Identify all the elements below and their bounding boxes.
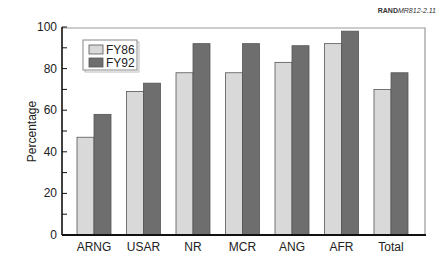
bar-fy92-afr xyxy=(342,31,359,235)
y-tick-label: 60 xyxy=(44,103,58,117)
bar-fy86-afr xyxy=(325,44,342,235)
legend-swatch-fy86 xyxy=(89,45,103,54)
bar-fy92-arng xyxy=(94,114,111,235)
y-tick-label: 80 xyxy=(44,62,58,76)
y-tick-label: 20 xyxy=(44,186,58,200)
x-category-label: ARNG xyxy=(77,240,112,254)
bar-fy92-ang xyxy=(292,46,309,235)
bar-fy92-total xyxy=(391,73,408,235)
y-tick-label: 0 xyxy=(50,228,57,242)
x-category-label: USAR xyxy=(127,240,161,254)
y-tick-label: 40 xyxy=(44,145,58,159)
x-category-label: ANG xyxy=(279,240,305,254)
bar-fy86-nr xyxy=(176,73,193,235)
bar-fy92-nr xyxy=(193,44,210,235)
bar-fy86-ang xyxy=(275,62,292,235)
legend-label-fy86: FY86 xyxy=(106,43,135,57)
y-tick-label: 100 xyxy=(37,20,57,34)
bar-fy86-mcr xyxy=(226,73,243,235)
x-category-label: Total xyxy=(378,240,403,254)
bar-fy86-total xyxy=(374,89,391,235)
bar-fy92-mcr xyxy=(243,44,260,235)
legend-label-fy92: FY92 xyxy=(106,56,135,70)
legend-swatch-fy92 xyxy=(89,58,103,67)
bar-chart: 020406080100ARNGUSARNRMCRANGAFRTotalPerc… xyxy=(0,0,446,265)
y-axis-title: Percentage xyxy=(25,100,39,162)
x-category-label: NR xyxy=(184,240,202,254)
bar-fy86-usar xyxy=(127,91,144,235)
bar-fy92-usar xyxy=(144,83,161,235)
bar-fy86-arng xyxy=(77,137,94,235)
x-category-label: AFR xyxy=(330,240,354,254)
x-category-label: MCR xyxy=(229,240,257,254)
